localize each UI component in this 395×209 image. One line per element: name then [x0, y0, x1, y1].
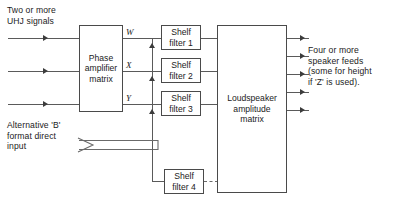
block-diagram-canvas: Two or more UHJ signals Alternative 'B' … — [0, 0, 395, 209]
input-arrow-1-icon — [43, 35, 48, 41]
channel-wire-w — [123, 38, 161, 39]
channel-label-y: Y — [126, 93, 131, 103]
channel-wire-y — [123, 104, 161, 105]
shelf4-to-matrix-dashed-wire — [204, 181, 218, 182]
output-arrow-2-icon — [300, 53, 305, 59]
shelf1-to-matrix-wire — [201, 38, 218, 39]
alternative-b-format-label: Alternative 'B' format direct input — [7, 120, 87, 152]
channel-label-x: X — [126, 60, 132, 70]
output-wire-2 — [287, 56, 309, 57]
shelf-filter-3-block[interactable]: Shelf filter 3 — [161, 91, 201, 116]
channel-label-w: W — [126, 27, 134, 37]
shelf-filter-2-block[interactable]: Shelf filter 2 — [161, 58, 201, 83]
speaker-feeds-label: Four or more speaker feeds (some for hei… — [308, 45, 394, 87]
b-format-arrow-up-w-icon — [149, 43, 155, 48]
b-format-arrow-up-y-icon — [149, 109, 155, 114]
output-arrow-3-icon — [300, 71, 305, 77]
input-arrow-2-icon — [43, 68, 48, 74]
phase-amplifier-matrix-block[interactable]: Phase amplifier matrix — [79, 25, 123, 112]
input-signals-label: Two or more UHJ signals — [7, 5, 93, 26]
output-arrow-5-icon — [300, 107, 305, 113]
b-format-bus-wire — [152, 38, 153, 145]
shelf3-to-matrix-wire — [201, 104, 218, 105]
shelf4-branch-horizontal-wire — [152, 181, 164, 182]
shelf2-to-matrix-wire — [201, 71, 218, 72]
shelf4-branch-vertical-wire — [152, 145, 153, 181]
output-wire-5 — [287, 110, 309, 111]
output-wire-3 — [287, 74, 309, 75]
shelf-filter-4-block[interactable]: Shelf filter 4 — [164, 169, 204, 194]
channel-wire-x — [123, 71, 161, 72]
output-arrow-1-icon — [300, 35, 305, 41]
output-wire-1 — [287, 38, 309, 39]
b-format-block-arrow-icon — [77, 135, 159, 155]
output-arrow-4-icon — [300, 89, 305, 95]
loudspeaker-amplitude-matrix-block[interactable]: Loudspeaker amplitude matrix — [217, 25, 287, 193]
output-wire-4 — [287, 92, 309, 93]
b-format-arrow-up-x-icon — [149, 76, 155, 81]
shelf-filter-1-block[interactable]: Shelf filter 1 — [161, 25, 201, 50]
input-arrow-3-icon — [43, 101, 48, 107]
